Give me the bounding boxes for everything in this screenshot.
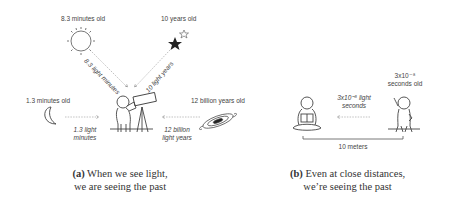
star-icon xyxy=(168,30,189,50)
caption-b-line2: we’re seeing the past xyxy=(270,180,425,193)
caption-a-label: (a) xyxy=(72,168,84,179)
caption-b: (b) Even at close distances, we’re seein… xyxy=(270,167,425,193)
observer-telescope-icon xyxy=(110,92,156,132)
caption-a-line2: we are seeing the past xyxy=(45,180,195,193)
star-age-label: 10 years old xyxy=(161,15,196,23)
distance-label: 10 meters xyxy=(333,143,373,151)
light-seconds-label: 3x10⁻⁸ light seconds xyxy=(330,94,378,110)
galaxy-distance-label: 12 billion light years xyxy=(160,126,194,142)
caption-b-label: (b) xyxy=(290,168,303,179)
galaxy-distance-line1: 12 billion xyxy=(160,126,194,134)
person-age-line2: seconds old xyxy=(380,80,430,88)
distance-bracket xyxy=(303,136,403,139)
caption-b-line1: Even at close distances, xyxy=(305,168,405,179)
caption-a: (a) When we see light, we are seeing the… xyxy=(45,167,195,193)
waving-person-icon xyxy=(388,97,420,132)
sun-age-label: 8.3 minutes old xyxy=(61,15,105,23)
moon-icon xyxy=(45,107,56,124)
reading-person-icon xyxy=(293,97,321,130)
moon-distance-line1: 1.3 light xyxy=(70,126,100,134)
light-seconds-line1: 3x10⁻⁸ light xyxy=(330,94,378,102)
light-seconds-line2: seconds xyxy=(330,102,378,110)
moon-distance-label: 1.3 light minutes xyxy=(70,126,100,142)
person-age-line1: 3x10⁻⁸ xyxy=(380,72,430,80)
galaxy-distance-line2: light years xyxy=(160,134,194,142)
moon-age-label: 1.3 minutes old xyxy=(26,97,70,105)
moon-distance-line2: minutes xyxy=(70,134,100,142)
galaxy-icon xyxy=(199,111,236,131)
caption-a-line1: When we see light, xyxy=(87,168,167,179)
galaxy-age-label: 12 billion years old xyxy=(191,97,245,105)
person-age-label: 3x10⁻⁸ seconds old xyxy=(380,72,430,88)
